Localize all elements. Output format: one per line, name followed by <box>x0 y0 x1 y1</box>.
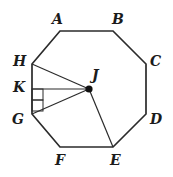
segment-J-E <box>89 89 113 147</box>
vertex-label-b: B <box>112 12 124 26</box>
vertex-label-h: H <box>13 54 26 68</box>
vertex-label-g: G <box>12 112 24 126</box>
center-point-J-dot <box>85 85 92 92</box>
right-angle-markers-group <box>32 89 43 111</box>
geometry-figure: ABCDEFGHJK <box>0 0 173 177</box>
octagon-diagram-svg <box>0 0 173 177</box>
vertex-label-j: J <box>92 68 99 82</box>
vertex-label-e: E <box>110 153 121 167</box>
inner-segments-group <box>32 64 113 147</box>
right-angle-marker-at-K <box>32 89 43 100</box>
vertex-label-a: A <box>52 12 63 26</box>
vertex-label-c: C <box>150 54 161 68</box>
vertex-label-d: D <box>150 112 162 126</box>
segment-J-G <box>32 89 89 114</box>
segment-J-H <box>32 64 89 89</box>
vertex-label-k: K <box>13 80 25 94</box>
vertex-label-f: F <box>55 153 65 167</box>
